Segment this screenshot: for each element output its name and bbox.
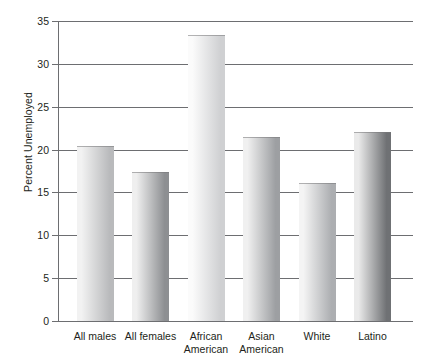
y-tick-label: 5 xyxy=(43,272,49,284)
bar-top-edge xyxy=(299,183,336,184)
y-tick-label: 30 xyxy=(37,58,49,70)
tick-mark xyxy=(52,107,58,108)
unemployment-bar-chart: Percent Unemployed 05101520253035 All ma… xyxy=(0,0,433,359)
bar-top-edge xyxy=(132,172,169,173)
gridline xyxy=(58,107,413,108)
x-axis-label: Latino xyxy=(328,330,418,343)
bar xyxy=(188,35,225,321)
bar-top-edge xyxy=(188,35,225,36)
y-tick-label: 15 xyxy=(37,186,49,198)
bar xyxy=(299,183,336,321)
y-tick-label: 20 xyxy=(37,144,49,156)
tick-mark xyxy=(52,235,58,236)
y-axis-line xyxy=(58,21,59,322)
y-axis-title: Percent Unemployed xyxy=(22,0,36,292)
y-tick-label: 0 xyxy=(43,315,49,327)
plot-area: 05101520253035 xyxy=(58,21,413,322)
bar xyxy=(243,137,280,321)
y-tick-label: 35 xyxy=(37,15,49,27)
gridline xyxy=(58,64,413,65)
y-tick-label: 25 xyxy=(37,101,49,113)
bar-top-edge xyxy=(354,132,391,133)
tick-mark xyxy=(52,21,58,22)
tick-mark xyxy=(52,64,58,65)
gridline xyxy=(58,21,413,22)
bar xyxy=(77,146,114,321)
bar-top-edge xyxy=(77,146,114,147)
bar xyxy=(132,172,169,321)
tick-mark xyxy=(52,150,58,151)
tick-mark xyxy=(52,192,58,193)
bar xyxy=(354,132,391,321)
bar-top-edge xyxy=(243,137,280,138)
tick-mark xyxy=(52,321,58,322)
tick-mark xyxy=(52,278,58,279)
y-tick-label: 10 xyxy=(37,229,49,241)
x-axis-line xyxy=(58,321,413,322)
